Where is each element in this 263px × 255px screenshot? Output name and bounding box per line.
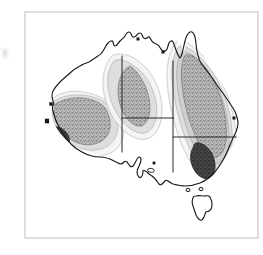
marker-perth <box>45 119 49 124</box>
australia-contour-map <box>0 0 263 255</box>
marker-sydney <box>233 117 236 120</box>
marker-shark-bay <box>49 102 52 105</box>
figure-root <box>0 0 263 255</box>
marker-eyre-peninsula <box>153 162 156 165</box>
marker-darwin <box>137 38 140 41</box>
marker-gulf-carpentaria <box>162 51 165 54</box>
